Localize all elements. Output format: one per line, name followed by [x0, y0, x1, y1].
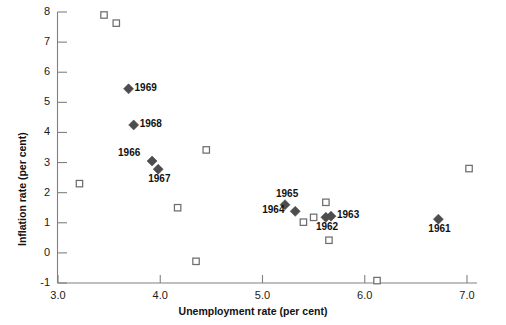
y-tick-label: 5: [22, 95, 50, 107]
y-tick-label: 2: [22, 186, 50, 198]
data-point-label-1961: 1961: [428, 223, 450, 234]
x-tick-label: 6.0: [340, 289, 390, 301]
x-tick-label: 7.0: [442, 289, 492, 301]
data-point-diamond: [290, 206, 300, 216]
y-tick-label: 3: [22, 156, 50, 168]
data-point-square: [76, 180, 82, 186]
x-tick-label: 3.0: [33, 289, 83, 301]
x-axis-title: Unemployment rate (per cent): [0, 305, 506, 317]
y-tick-label: -1: [22, 276, 50, 288]
data-point-label-1964: 1964: [262, 204, 284, 215]
x-tick-label: 5.0: [238, 289, 288, 301]
y-tick-label: 1: [22, 216, 50, 228]
data-point-label-1963: 1963: [337, 209, 359, 220]
data-point-label-1965: 1965: [276, 188, 298, 199]
data-point-label-1966: 1966: [118, 147, 140, 158]
data-point-label-1969: 1969: [135, 82, 157, 93]
data-point-diamond: [129, 120, 139, 130]
data-point-label-1962: 1962: [316, 221, 338, 232]
data-point-diamond: [124, 84, 134, 94]
x-tick-label: 4.0: [135, 289, 185, 301]
data-point-square: [374, 277, 380, 283]
y-tick-label: 0: [22, 246, 50, 258]
data-point-square: [193, 258, 199, 264]
data-point-square: [310, 214, 316, 220]
data-point-label-1968: 1968: [140, 118, 162, 129]
y-tick-label: 4: [22, 125, 50, 137]
scatter-plot: Inflation rate (per cent) Unemployment r…: [0, 0, 506, 325]
data-point-square: [466, 165, 472, 171]
y-tick-label: 7: [22, 35, 50, 47]
data-point-square: [300, 219, 306, 225]
data-point-square: [326, 237, 332, 243]
data-point-square: [323, 199, 329, 205]
data-point-square: [101, 12, 107, 18]
data-point-diamond: [147, 156, 157, 166]
data-point-label-1967: 1967: [148, 173, 170, 184]
plot-area: [0, 0, 506, 325]
data-point-square: [113, 20, 119, 26]
y-tick-label: 6: [22, 65, 50, 77]
y-tick-label: 8: [22, 5, 50, 17]
data-point-square: [174, 205, 180, 211]
data-point-square: [203, 147, 209, 153]
